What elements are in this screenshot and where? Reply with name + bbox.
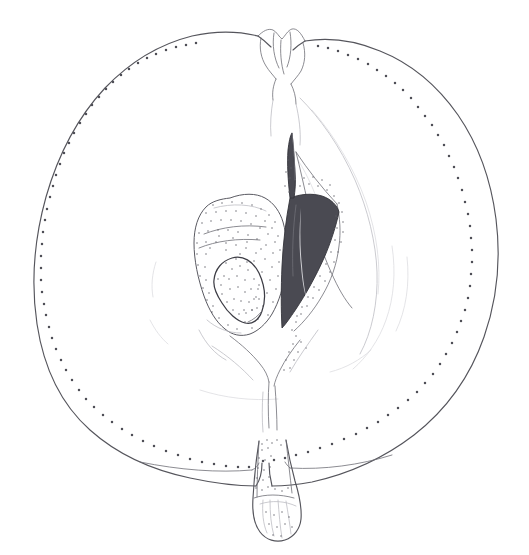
apple-cross-section-drawing [0, 0, 529, 555]
illustration-canvas [0, 0, 529, 555]
vascular-bundle [212, 330, 318, 446]
stem [253, 440, 301, 541]
right-locule [281, 133, 352, 371]
right-seed [281, 133, 339, 328]
left-locule [194, 194, 287, 360]
stem-cavity [140, 455, 392, 486]
core-base-stipple [261, 439, 281, 445]
